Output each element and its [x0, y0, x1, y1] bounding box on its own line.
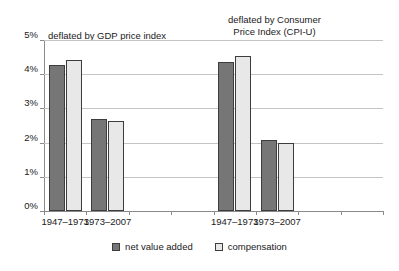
y-axis-tick [40, 143, 44, 144]
gridline [44, 74, 383, 75]
bar-net-value-added-0 [49, 65, 65, 211]
x-axis-tick [383, 211, 384, 215]
x-axis-tick [171, 211, 172, 215]
legend: net value addedcompensation [0, 241, 399, 252]
annotation-cpi-line-2: Price Index (CPI-U) [228, 26, 321, 38]
x-axis-tick [129, 211, 130, 215]
y-axis-tick [40, 74, 44, 75]
legend-swatch-icon [112, 243, 120, 251]
bar-compensation-1 [108, 121, 124, 211]
bar-net-value-added-1 [91, 119, 107, 211]
y-axis-label: 2% [4, 133, 38, 143]
legend-item: compensation [215, 241, 287, 252]
plot-area [44, 40, 383, 211]
annotation-cpi-line-1: deflated by Consumer [228, 14, 321, 26]
y-axis-label: 1% [4, 167, 38, 177]
legend-label: compensation [228, 241, 287, 252]
y-axis-line [44, 40, 45, 211]
legend-swatch-icon [215, 243, 223, 251]
y-axis-tick [40, 40, 44, 41]
y-axis-label: 3% [4, 98, 38, 108]
annotation-consumer-price-index: deflated by Consumer Price Index (CPI-U) [228, 14, 321, 37]
gridline [44, 108, 383, 109]
gridline [44, 40, 383, 41]
bar-chart: deflated by GDP price index deflated by … [0, 0, 399, 271]
y-axis-tick [40, 108, 44, 109]
x-axis-category-label: 1973–2007 [237, 216, 317, 227]
x-axis-tick [341, 211, 342, 215]
legend-label: net value added [125, 241, 193, 252]
bar-compensation-0 [66, 60, 82, 211]
bar-compensation-2 [235, 56, 251, 211]
y-axis-tick [40, 177, 44, 178]
y-axis-label: 0% [4, 201, 38, 211]
legend-item: net value added [112, 241, 193, 252]
x-axis-tick [214, 211, 215, 215]
x-axis-category-label: 1973–2007 [68, 216, 148, 227]
bar-net-value-added-2 [218, 62, 234, 211]
bar-net-value-added-3 [261, 140, 277, 211]
x-axis-tick [298, 211, 299, 215]
bar-compensation-3 [278, 143, 294, 211]
y-axis-label: 4% [4, 64, 38, 74]
x-axis-tick [44, 211, 45, 215]
x-axis-tick [86, 211, 87, 215]
x-axis-tick [256, 211, 257, 215]
y-axis-label: 5% [4, 30, 38, 40]
